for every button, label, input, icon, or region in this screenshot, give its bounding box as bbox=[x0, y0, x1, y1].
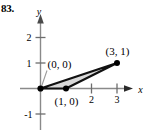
figure-container: 83. y x 2 1 -1 2 3 bbox=[0, 0, 152, 135]
y-tick-label-2: 2 bbox=[27, 32, 32, 43]
point-label-1-0: (1, 0) bbox=[55, 95, 79, 108]
x-axis-label: x bbox=[137, 84, 143, 95]
point-label-3-1: (3, 1) bbox=[106, 45, 130, 58]
y-axis-label: y bbox=[36, 6, 42, 17]
x-tick-label-2: 2 bbox=[89, 94, 94, 105]
coordinate-plot: y x 2 1 -1 2 3 (0, 0) (1, 0) (3, 1) bbox=[0, 0, 152, 135]
annotation-leader-line bbox=[42, 71, 48, 87]
point-3-1-marker bbox=[114, 60, 120, 66]
y-tick-label-neg1: -1 bbox=[24, 109, 32, 120]
x-tick-label-3: 3 bbox=[115, 94, 120, 105]
x-axis-arrowhead bbox=[124, 85, 133, 91]
point-label-origin: (0, 0) bbox=[48, 58, 72, 71]
point-1-0-marker bbox=[63, 86, 69, 92]
point-origin-marker bbox=[37, 85, 43, 91]
y-tick-label-1: 1 bbox=[27, 58, 32, 69]
